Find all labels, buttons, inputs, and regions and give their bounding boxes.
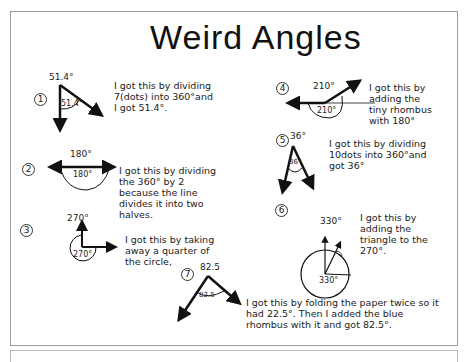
angle-4-inside-label: 210°: [317, 106, 336, 115]
item-number-4: 4: [276, 82, 289, 95]
angle-7-explanation: I got this by folding the paper twice so…: [246, 297, 446, 330]
angle-5-top-label: 36°: [290, 131, 306, 141]
item-number-5: 5: [276, 134, 289, 147]
angle-5-drawing: [283, 146, 312, 190]
item-number-2: 2: [22, 163, 35, 176]
angle-7-inside-label: 82.5: [199, 291, 215, 299]
angle-1-top-label: 51.4°: [49, 72, 74, 82]
angle-4-top-label: 210°: [313, 81, 335, 91]
angle-5-inside-label: 36°: [289, 158, 301, 166]
item-number-6: 6: [275, 204, 288, 217]
angle-5-explanation: I got this by dividing 10dots into 360°a…: [329, 138, 439, 171]
angle-6-explanation: I got this by adding the triangle to the…: [360, 212, 442, 256]
angle-1-explanation: I got this by dividing 7(dots) into 360°…: [114, 80, 214, 113]
angle-4-explanation: I got this by adding the tiny rhombus wi…: [369, 82, 441, 126]
angle-6-drawing: [301, 238, 351, 298]
angle-7-top-label: 82.5: [200, 262, 220, 272]
angle-2-top-label: 180°: [70, 149, 92, 159]
angle-6-inside-label: 330°: [319, 276, 338, 285]
angle-2-inside-label: 180°: [73, 170, 92, 179]
angle-3-inside-label: 270°: [73, 250, 92, 259]
item-number-3: 3: [20, 224, 33, 237]
angle-1-inside-label: 51.4°: [61, 99, 83, 108]
angle-2-explanation: I got this by dividing the 360° by 2 bec…: [119, 165, 224, 220]
item-number-1: 1: [34, 93, 47, 106]
angle-3-top-label: 270°: [67, 213, 89, 223]
angle-6-top-label: 330°: [320, 216, 342, 226]
item-number-7: 7: [181, 268, 194, 281]
